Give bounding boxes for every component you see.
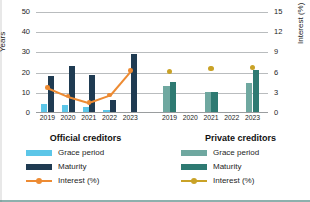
legend-group-official: Official creditors Grace period Maturity… xyxy=(0,130,155,185)
plot-area: Years Interest (%) 01020304050 03691215 … xyxy=(0,0,310,130)
plot-canvas xyxy=(36,12,268,113)
legend: Official creditors Grace period Maturity… xyxy=(0,130,310,202)
grace-period-swatch-icon xyxy=(26,150,52,156)
legend-item-official-interest[interactable]: Interest (%) xyxy=(0,176,155,185)
y-tick-right: 12 xyxy=(274,28,296,36)
maturity-swatch-icon xyxy=(26,164,52,170)
x-axis-tick-labels: 2019202020212022202320192020202120222023 xyxy=(36,114,268,126)
interest-data-point xyxy=(128,68,133,73)
y-tick-left: 40 xyxy=(10,28,30,36)
y-tick-left: 30 xyxy=(10,48,30,56)
interest-line-marker-icon xyxy=(181,178,207,184)
legend-label-official-maturity: Maturity xyxy=(58,162,86,171)
bar-maturity-2021 xyxy=(211,92,217,113)
legend-item-official-maturity[interactable]: Maturity xyxy=(0,162,155,171)
y-tick-left: 0 xyxy=(10,109,30,117)
bar-maturity-2020 xyxy=(69,66,75,113)
x-tick-label: 2023 xyxy=(240,114,264,121)
y-tick-right: 9 xyxy=(274,48,296,56)
bar-maturity-2019 xyxy=(170,82,176,113)
interest-data-point xyxy=(107,93,112,98)
bar-grace-period-2023 xyxy=(246,83,252,113)
x-axis-baseline xyxy=(36,112,268,113)
grace-period-swatch-icon xyxy=(181,150,207,156)
bar-grace-period-2021 xyxy=(205,92,211,113)
y-axis-right-title: Interest (%) xyxy=(296,3,305,44)
interest-data-point xyxy=(250,65,255,70)
interest-data-point xyxy=(87,100,92,105)
y-tick-right: 15 xyxy=(274,8,296,16)
legend-item-official-grace[interactable]: Grace period xyxy=(0,148,155,157)
gridline xyxy=(36,12,268,13)
interest-data-point xyxy=(208,66,213,71)
bar-maturity-2023 xyxy=(253,70,259,113)
legend-title-private: Private creditors xyxy=(155,133,310,143)
maturity-swatch-icon xyxy=(181,164,207,170)
bar-maturity-2022 xyxy=(110,100,116,113)
chart-root: Years Interest (%) 01020304050 03691215 … xyxy=(0,0,310,202)
bar-grace-period-2019 xyxy=(163,86,169,113)
y-tick-left: 10 xyxy=(10,89,30,97)
bar-maturity-2019 xyxy=(48,76,54,113)
legend-item-private-interest[interactable]: Interest (%) xyxy=(155,176,310,185)
legend-title-official: Official creditors xyxy=(0,133,155,143)
bar-maturity-2023 xyxy=(131,54,137,113)
y-axis-left-title: Years xyxy=(0,32,7,52)
bar-maturity-2021 xyxy=(89,75,95,113)
x-tick-label: 2023 xyxy=(118,114,142,121)
legend-label-private-maturity: Maturity xyxy=(213,162,241,171)
interest-data-point xyxy=(45,85,50,90)
legend-item-private-maturity[interactable]: Maturity xyxy=(155,162,310,171)
legend-label-private-grace: Grace period xyxy=(213,148,259,157)
footer-rule xyxy=(0,200,310,202)
interest-line-marker-icon xyxy=(26,178,52,184)
y-tick-right: 3 xyxy=(274,89,296,97)
y-tick-right: 0 xyxy=(274,109,296,117)
y-tick-left: 50 xyxy=(10,8,30,16)
legend-label-private-interest: Interest (%) xyxy=(213,176,254,185)
y-tick-left: 20 xyxy=(10,69,30,77)
legend-group-private: Private creditors Grace period Maturity … xyxy=(155,130,310,185)
legend-label-official-grace: Grace period xyxy=(58,148,104,157)
legend-label-official-interest: Interest (%) xyxy=(58,176,99,185)
gridline xyxy=(36,52,268,53)
legend-item-private-grace[interactable]: Grace period xyxy=(155,148,310,157)
gridline xyxy=(36,32,268,33)
y-tick-right: 6 xyxy=(274,69,296,77)
